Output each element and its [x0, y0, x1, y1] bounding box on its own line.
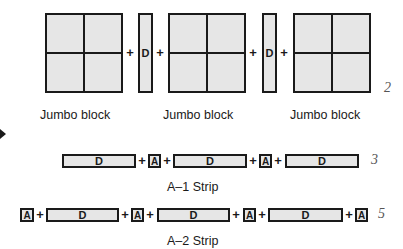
- plus-sign: +: [125, 46, 135, 60]
- a-piece: A: [355, 208, 368, 222]
- jumbo-block: [293, 13, 371, 93]
- plus-sign: +: [344, 208, 354, 222]
- a-piece: A: [20, 208, 34, 222]
- row-count: 5: [378, 206, 385, 222]
- a-piece: A: [148, 154, 161, 168]
- jumbo-block: [168, 13, 246, 93]
- plus-sign: +: [257, 208, 267, 222]
- a-piece: A: [259, 154, 272, 168]
- plus-sign: +: [279, 46, 289, 60]
- d-piece: D: [173, 154, 247, 168]
- strip-label: A–1 Strip: [167, 180, 218, 194]
- plus-sign: +: [162, 154, 172, 168]
- row-count: 3: [371, 152, 378, 168]
- plus-sign: +: [35, 208, 45, 222]
- d-strip: D: [138, 13, 153, 93]
- d-piece: D: [46, 208, 119, 222]
- plus-sign: +: [155, 46, 165, 60]
- d-piece: D: [62, 154, 136, 168]
- d-strip: D: [262, 13, 277, 93]
- plus-sign: +: [137, 154, 147, 168]
- d-piece: D: [157, 208, 230, 222]
- row-count: 2: [384, 80, 391, 96]
- jumbo-block-label: Jumbo block: [163, 108, 233, 122]
- seam-horizontal: [295, 52, 369, 54]
- plus-sign: +: [273, 154, 283, 168]
- pointer-arrow-icon: [0, 129, 6, 139]
- plus-sign: +: [145, 208, 155, 222]
- jumbo-block: [45, 13, 123, 93]
- plus-sign: +: [248, 46, 258, 60]
- a-piece: A: [131, 208, 144, 222]
- d-piece: D: [285, 154, 359, 168]
- d-piece: D: [268, 208, 343, 222]
- plus-sign: +: [231, 208, 241, 222]
- jumbo-block-label: Jumbo block: [40, 108, 110, 122]
- strip-label: A–2 Strip: [167, 234, 218, 248]
- plus-sign: +: [248, 154, 258, 168]
- seam-horizontal: [170, 52, 244, 54]
- seam-horizontal: [47, 52, 121, 54]
- a-piece: A: [243, 208, 256, 222]
- plus-sign: +: [120, 208, 130, 222]
- jumbo-block-label: Jumbo block: [290, 108, 360, 122]
